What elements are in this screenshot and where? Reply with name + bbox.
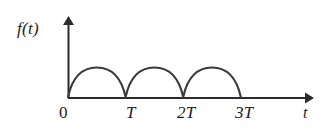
figure-container: f(t) 0 T 2T 3T t [0,0,335,136]
y-axis-label: f(t) [17,20,39,37]
x-tick-label-0: 0 [59,104,68,121]
rectified-sine-curve [68,68,241,98]
x-tick-label-3t: 3T [235,104,254,121]
x-tick-label-t: T [126,104,136,121]
x-tick-label-2t: 2T [177,104,196,121]
x-axis-label: t [303,105,308,121]
x-axis-arrow-icon [305,93,314,104]
rectified-sine-plot [0,0,335,136]
y-axis-arrow-icon [63,16,74,25]
